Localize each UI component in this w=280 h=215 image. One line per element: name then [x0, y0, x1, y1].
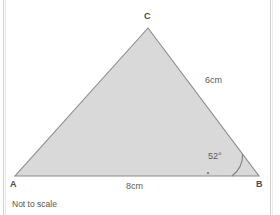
side-length-label-ab: 8cm: [126, 182, 143, 191]
vertex-label-c: C: [144, 12, 151, 21]
triangle-shape: [15, 28, 259, 176]
side-length-label-cb: 6cm: [205, 76, 222, 85]
vertex-label-b: B: [256, 180, 263, 189]
angle-measure-label-b: 52°: [208, 152, 222, 161]
base-tick-dot: [207, 172, 209, 174]
not-to-scale-caption: Not to scale: [12, 199, 57, 209]
figure-panel: A B C 8cm 6cm 52° Not to scale: [0, 0, 280, 215]
vertex-label-a: A: [10, 180, 17, 189]
